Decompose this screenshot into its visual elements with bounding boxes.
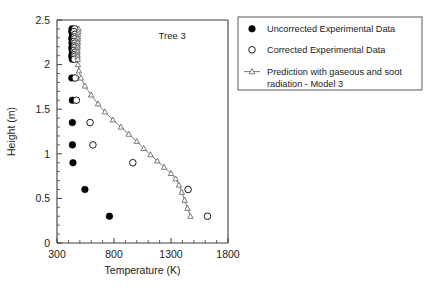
chart-legend: Uncorrected Experimental DataCorrected E… bbox=[238, 17, 422, 90]
data-point-triangle bbox=[185, 205, 190, 210]
x-tick-label: 300 bbox=[48, 248, 66, 260]
data-point-triangle bbox=[76, 68, 81, 73]
data-point-triangle bbox=[176, 182, 181, 187]
legend-open-circle-icon bbox=[249, 47, 256, 54]
x-tick-label: 800 bbox=[105, 248, 123, 260]
legend-label-prediction-line2: radiation - Model 3 bbox=[267, 79, 343, 89]
chart-annotation: Tree 3 bbox=[159, 30, 186, 41]
axes: 30080013001800Temperature (K)00.511.522.… bbox=[5, 14, 240, 276]
y-axis-title: Height (m) bbox=[5, 107, 17, 156]
data-point-triangle bbox=[188, 213, 193, 218]
legend-label-uncorrected: Uncorrected Experimental Data bbox=[267, 24, 396, 34]
data-point-filled bbox=[69, 119, 76, 126]
tree-label: Tree 3 bbox=[159, 30, 186, 41]
data-point-open bbox=[90, 142, 97, 149]
data-point-triangle bbox=[82, 83, 87, 88]
prediction-line bbox=[78, 29, 191, 216]
y-tick-label: 2 bbox=[44, 58, 50, 70]
scatter-chart: 30080013001800Temperature (K)00.511.522.… bbox=[0, 0, 427, 295]
x-tick-label: 1300 bbox=[159, 248, 183, 260]
legend-label-prediction-line1: Prediction with gaseous and soot bbox=[267, 67, 402, 77]
data-point-open bbox=[72, 75, 79, 82]
data-point-filled bbox=[106, 213, 113, 220]
y-tick-label: 1 bbox=[44, 148, 50, 160]
x-axis-title: Temperature (K) bbox=[105, 264, 181, 276]
figure-container: 30080013001800Temperature (K)00.511.522.… bbox=[0, 0, 427, 295]
data-series bbox=[69, 26, 211, 220]
legend-filled-circle-icon bbox=[249, 26, 256, 33]
data-point-filled bbox=[82, 186, 89, 193]
series-open-circle bbox=[71, 26, 211, 220]
x-tick-label: 1800 bbox=[216, 248, 240, 260]
data-point-open bbox=[73, 97, 80, 104]
y-tick-label: 1.5 bbox=[35, 103, 50, 115]
data-point-filled bbox=[70, 159, 77, 166]
data-point-triangle bbox=[179, 189, 184, 194]
data-point-open bbox=[130, 159, 137, 166]
data-point-open bbox=[185, 186, 192, 193]
legend-label-corrected: Corrected Experimental Data bbox=[267, 45, 386, 55]
y-tick-label: 0 bbox=[44, 237, 50, 249]
data-point-open bbox=[204, 213, 211, 220]
data-point-filled bbox=[69, 142, 76, 149]
y-tick-label: 2.5 bbox=[35, 14, 50, 26]
y-tick-label: 0.5 bbox=[35, 192, 50, 204]
data-point-triangle bbox=[78, 75, 83, 80]
data-point-triangle bbox=[182, 197, 187, 202]
data-point-open bbox=[87, 119, 94, 126]
